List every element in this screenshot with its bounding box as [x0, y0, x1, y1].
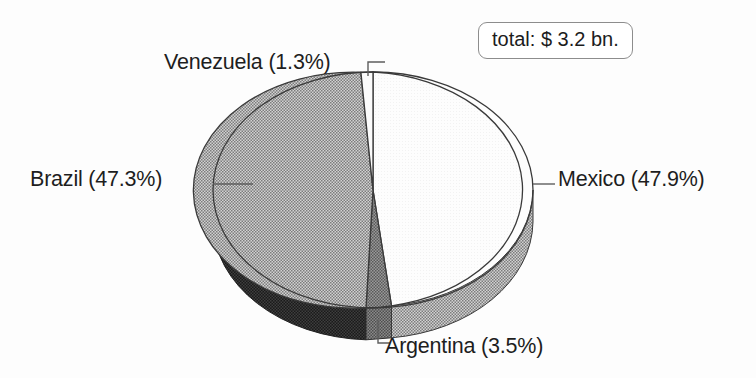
total-annotation-box: total: $ 3.2 bn. [478, 22, 633, 59]
slice-label-argentina: Argentina (3.5%) [385, 336, 543, 358]
slice-label-mexico: Mexico (47.9%) [558, 169, 705, 191]
pie-chart-figure: Venezuela (1.3%) Brazil (47.3%) Mexico (… [0, 0, 756, 378]
slice-brazil [193, 72, 373, 308]
slice-label-brazil: Brazil (47.3%) [30, 169, 162, 191]
slice-label-venezuela: Venezuela (1.3%) [164, 52, 331, 74]
